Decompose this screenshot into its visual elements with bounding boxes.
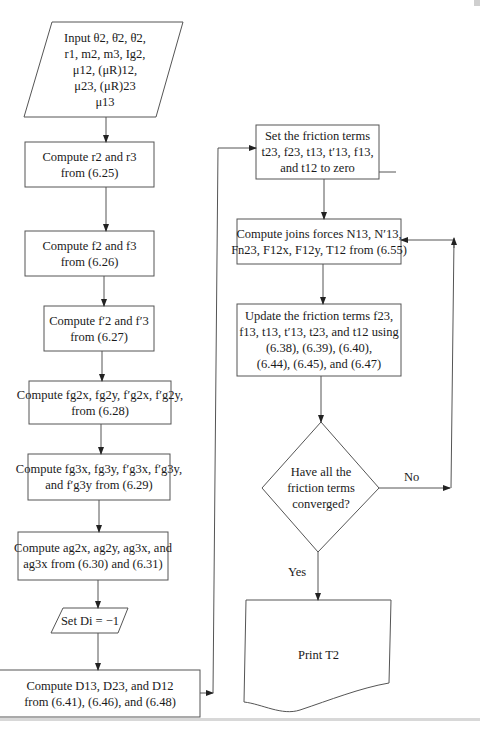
edge-label-no: No — [404, 470, 419, 485]
bottom-divider — [0, 718, 480, 721]
step6-line-2: ag3x from (6.30) and (6.31) — [23, 556, 163, 572]
flowchart-canvas: Input θ2, θ̇2, θ̈2, r1, m2, m3, Ig2, μ12… — [0, 0, 480, 731]
update-friction-line-2: f13, t13, t′13, t23, and t12 using — [239, 324, 399, 340]
step4-node: Compute fg2x, fg2y, f′g2x, f′g2y, from (… — [29, 381, 171, 424]
step5-node: Compute fg3x, fg3y, f′g3x, f′g3y, and f′… — [28, 454, 170, 500]
update-friction-line-1: Update the friction terms f23, — [245, 308, 393, 324]
step5-line-2: and f′g3y from (6.29) — [45, 477, 153, 493]
input-line-2: r1, m2, m3, Ig2, — [65, 46, 146, 62]
update-friction-line-4: (6.44), (6.45), and (6.47) — [257, 356, 381, 372]
output-node: Print T2 — [246, 640, 391, 670]
step5-line-1: Compute fg3x, fg3y, f′g3x, f′g3y, — [16, 461, 182, 477]
step6-line-1: Compute ag2x, ag2y, ag3x, and — [14, 540, 172, 556]
step2-line-1: Compute f2 and f3 — [42, 238, 136, 254]
set-d-node: Set Di = −1 — [52, 608, 128, 633]
step1-node: Compute r2 and r3 from (6.25) — [25, 142, 154, 187]
step7-node: Compute D13, D23, and D12 from (6.41), (… — [0, 670, 200, 717]
decision-line-3: converged? — [292, 496, 349, 512]
input-line-1: Input θ2, θ̇2, θ̈2, — [64, 30, 146, 46]
step3-line-2: from (6.27) — [70, 329, 128, 345]
step7-line-1: Compute D13, D23, and D12 — [26, 678, 173, 694]
step1-line-2: from (6.25) — [61, 165, 119, 181]
step4-line-2: from (6.28) — [71, 403, 129, 419]
joint-forces-line-2: Fn23, F12x, F12y, T12 from (6.55) — [231, 242, 407, 258]
step2-node: Compute f2 and f3 from (6.26) — [25, 231, 154, 276]
step4-line-1: Compute fg2x, fg2y, f′g2x, f′g2y, — [17, 387, 183, 403]
init-friction-line-1: Set the friction terms — [265, 128, 370, 144]
input-line-5: μ13 — [95, 94, 114, 110]
input-node: Input θ2, θ̇2, θ̈2, r1, m2, m3, Ig2, μ12… — [40, 26, 170, 114]
step3-node: Compute f′2 and f′3 from (6.27) — [44, 306, 154, 351]
step7-line-2: from (6.41), (6.46), and (6.48) — [24, 694, 176, 710]
decision-line-2: friction terms — [287, 480, 355, 496]
output-line-1: Print T2 — [298, 647, 339, 663]
step3-line-1: Compute f′2 and f′3 — [49, 313, 149, 329]
step2-line-2: from (6.26) — [61, 254, 119, 270]
update-friction-line-3: (6.38), (6.39), (6.40), — [266, 340, 372, 356]
init-friction-line-2: t23, f23, t13, t′13, f13, — [261, 144, 373, 160]
decision-node: Have all the friction terms converged? — [272, 460, 370, 516]
step1-line-1: Compute r2 and r3 — [42, 149, 136, 165]
decision-line-1: Have all the — [291, 464, 351, 480]
corner-mark — [474, 0, 480, 6]
joint-forces-line-1: Compute joins forces N13, N′13, — [236, 226, 401, 242]
set-d-line-1: Set Di = −1 — [61, 613, 119, 629]
step6-node: Compute ag2x, ag2y, ag3x, and ag3x from … — [18, 532, 168, 580]
joint-forces-node: Compute joins forces N13, N′13, Fn23, F1… — [237, 219, 401, 264]
init-friction-node: Set the friction terms t23, f23, t13, t′… — [256, 125, 379, 179]
input-line-4: μ23, (μR)23 — [74, 78, 135, 94]
input-line-3: μ12, (μR)12, — [73, 62, 137, 78]
update-friction-node: Update the friction terms f23, f13, t13,… — [237, 304, 401, 376]
edge-label-yes: Yes — [288, 565, 306, 580]
init-friction-line-3: and t12 to zero — [280, 160, 355, 176]
